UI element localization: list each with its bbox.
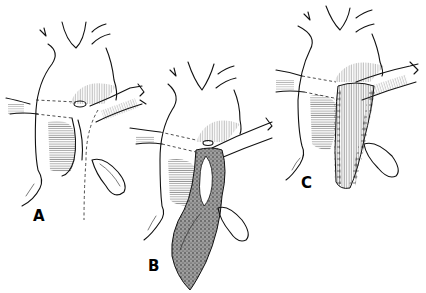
panel-b-drawing [130,62,272,290]
panel-label-b: B [148,259,159,274]
panel-label-a: A [33,209,45,224]
panel-a-drawing [6,22,146,220]
panel-label-c: C [301,176,312,191]
aortic-repair-illustration [0,0,426,293]
panel-c-drawing [276,6,418,188]
illustration-canvas: A B C [0,0,426,293]
